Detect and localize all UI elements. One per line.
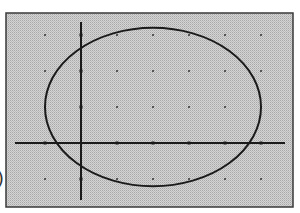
grid-dot bbox=[188, 34, 190, 36]
grid-dot bbox=[224, 106, 226, 108]
grid-dot bbox=[44, 34, 46, 36]
grid-dot bbox=[116, 178, 118, 180]
calculator-graph-screen bbox=[0, 0, 300, 213]
grid-dot bbox=[224, 178, 226, 180]
x-tick bbox=[116, 142, 119, 145]
x-tick bbox=[224, 142, 227, 145]
grid-dot bbox=[188, 178, 190, 180]
x-tick bbox=[152, 142, 155, 145]
y-tick bbox=[80, 178, 83, 181]
grid-dot bbox=[260, 70, 262, 72]
grid-dot bbox=[188, 106, 190, 108]
grid-dot bbox=[44, 178, 46, 180]
grid-dot bbox=[188, 70, 190, 72]
grid-dot bbox=[224, 70, 226, 72]
grid-dot bbox=[116, 70, 118, 72]
y-tick bbox=[80, 70, 83, 73]
grid-dot bbox=[152, 34, 154, 36]
x-tick bbox=[44, 142, 47, 145]
grid-dot bbox=[116, 106, 118, 108]
plot-frame bbox=[6, 13, 293, 207]
x-tick bbox=[260, 142, 263, 145]
grid-dot bbox=[260, 34, 262, 36]
grid-dot bbox=[116, 34, 118, 36]
grid-dot bbox=[152, 106, 154, 108]
grid-dot bbox=[44, 70, 46, 72]
grid-dot bbox=[260, 178, 262, 180]
y-tick bbox=[80, 106, 83, 109]
y-tick bbox=[80, 34, 83, 37]
x-tick bbox=[188, 142, 191, 145]
grid-dot bbox=[152, 70, 154, 72]
grid-dot bbox=[224, 34, 226, 36]
grid-dot bbox=[152, 178, 154, 180]
